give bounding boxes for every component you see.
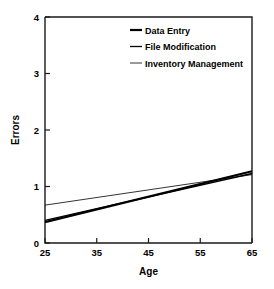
x-tick-label-55: 55: [195, 247, 206, 258]
y-tick-label-2: 2: [34, 125, 39, 136]
legend-label-data-entry: Data Entry: [145, 26, 190, 36]
x-tick-label-65: 65: [247, 247, 258, 258]
x-axis-title: Age: [139, 266, 158, 277]
y-tick-label-1: 1: [34, 181, 40, 192]
errors-by-age-line-chart: 0 1 2 3 4 25 35 45 55 65 Age Errors Data…: [0, 0, 274, 289]
x-tick-label-35: 35: [91, 247, 102, 258]
x-tick-label-25: 25: [40, 247, 51, 258]
y-tick-label-3: 3: [34, 68, 39, 79]
y-tick-label-4: 4: [34, 12, 40, 23]
legend-label-file-modification: File Modification: [145, 42, 216, 52]
y-tick-label-0: 0: [34, 238, 39, 249]
legend-label-inventory-management: Inventory Management: [145, 59, 243, 69]
x-tick-label-45: 45: [143, 247, 154, 258]
y-axis-title: Errors: [10, 115, 21, 145]
